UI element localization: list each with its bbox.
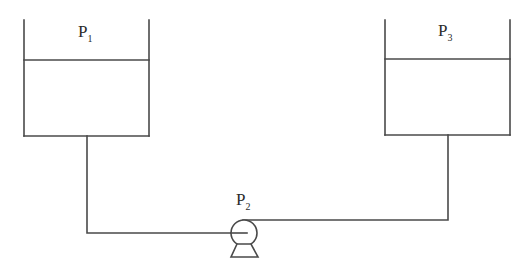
suction-pipe [87,136,247,233]
pump-icon [231,220,258,257]
discharge-pipe [243,135,448,220]
tank-right-label: P3 [438,21,452,43]
tank-left-label: P1 [78,22,92,44]
pump-label: P2 [236,190,250,212]
